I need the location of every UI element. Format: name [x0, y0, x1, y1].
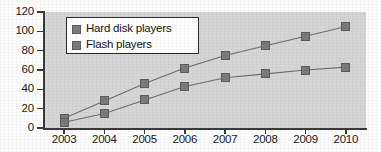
y-axis-tick: [37, 50, 44, 51]
data-point-marker: [301, 32, 310, 41]
data-point-marker: [261, 69, 270, 78]
x-axis-tick-label: 2008: [243, 134, 287, 146]
y-axis-tick-label: 80: [0, 45, 34, 57]
y-axis-tick: [37, 89, 44, 90]
data-point-marker: [180, 64, 189, 73]
data-point-marker: [341, 63, 350, 72]
data-point-marker: [100, 109, 109, 118]
x-axis-tick-label: 2004: [82, 134, 126, 146]
y-axis-tick-label: 0: [0, 122, 34, 134]
data-point-marker: [221, 73, 230, 82]
chart-container: 020406080100120 200320042005200620072008…: [0, 0, 381, 152]
legend-label: Hard disk players: [86, 23, 171, 35]
y-axis-tick: [37, 127, 44, 128]
data-point-marker: [140, 95, 149, 104]
x-axis-line: [43, 128, 367, 130]
legend-swatch-icon: [72, 25, 81, 34]
y-axis-tick-label: 40: [0, 83, 34, 95]
y-axis-tick: [37, 11, 44, 12]
data-point-marker: [100, 96, 109, 105]
x-axis-tick-label: 2006: [163, 134, 207, 146]
data-point-marker: [341, 22, 350, 31]
data-point-marker: [140, 79, 149, 88]
y-axis-tick: [37, 31, 44, 32]
y-axis-tick-label: 60: [0, 64, 34, 76]
data-point-marker: [221, 51, 230, 60]
x-axis-tick-label: 2007: [203, 134, 247, 146]
x-axis-tick-label: 2003: [42, 134, 86, 146]
x-axis-tick-label: 2010: [324, 134, 368, 146]
chart-legend: Hard disk players Flash players: [66, 17, 199, 54]
x-axis-tick-label: 2005: [123, 134, 167, 146]
legend-item-flash-players: Flash players: [72, 37, 198, 53]
y-axis-tick-label: 20: [0, 103, 34, 115]
legend-item-hard-disk-players: Hard disk players: [72, 21, 198, 37]
data-point-marker: [180, 82, 189, 91]
data-point-marker: [261, 41, 270, 50]
y-axis-tick-label: 100: [0, 25, 34, 37]
x-axis-tick-label: 2009: [284, 134, 328, 146]
legend-label: Flash players: [86, 39, 152, 51]
legend-swatch-icon: [72, 41, 81, 50]
y-axis-tick: [37, 108, 44, 109]
y-axis-tick: [37, 69, 44, 70]
data-point-marker: [60, 118, 69, 127]
data-point-marker: [301, 66, 310, 75]
y-axis-tick-label: 120: [0, 6, 34, 18]
